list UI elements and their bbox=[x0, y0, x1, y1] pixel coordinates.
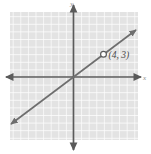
open-circle-marker bbox=[101, 51, 107, 57]
coordinate-plane-figure: (4, 3) x y bbox=[0, 0, 151, 154]
x-axis-label: x bbox=[142, 74, 147, 82]
point-marker-group bbox=[101, 51, 107, 57]
graph-canvas: (4, 3) x y bbox=[0, 0, 151, 154]
point-coordinate-label: (4, 3) bbox=[109, 50, 130, 61]
